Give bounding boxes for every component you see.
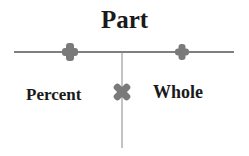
plus-icon — [175, 44, 189, 60]
plus-icon — [62, 43, 78, 61]
part-label: Part — [0, 6, 249, 34]
percent-label: Percent — [26, 85, 81, 105]
part-whole-percent-diagram: Part Percent Whole — [0, 0, 249, 156]
whole-label: Whole — [153, 82, 203, 103]
